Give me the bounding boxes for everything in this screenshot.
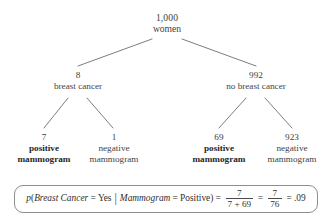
formula-fraction-1: 7 7 + 69 <box>226 189 254 209</box>
node-true-positive-count: 7 <box>17 132 70 143</box>
edge-root-to-no-breast-cancer <box>182 39 256 66</box>
formula-fraction-2-denominator: 76 <box>268 199 281 209</box>
formula-box: p(Breast Cancer=Yes|Mammogram=Positive)=… <box>14 185 318 213</box>
node-root-label: women <box>153 23 181 34</box>
node-false-negative-line1: negative <box>90 143 139 154</box>
formula-condition-value: Positive <box>180 194 210 203</box>
formula-equals-2: = <box>170 194 180 203</box>
edge-nbc-to-positive <box>219 98 246 128</box>
node-root: 1,000 women <box>153 12 181 35</box>
edge-bc-to-negative <box>87 98 113 128</box>
node-false-negative: 1 negative mammogram <box>90 132 139 165</box>
formula-fraction-1-denominator: 7 + 69 <box>226 199 254 209</box>
node-false-negative-line2: mammogram <box>90 154 139 165</box>
node-true-negative: 923 negative mammogram <box>268 132 317 165</box>
formula-equals-3: = <box>213 194 223 203</box>
node-no-breast-cancer-label: no breast cancer <box>226 81 286 92</box>
node-true-positive-line1: positive <box>17 143 70 154</box>
formula-result: .09 <box>294 194 306 203</box>
node-true-negative-line2: mammogram <box>268 154 317 165</box>
formula-conditional-bar: | <box>112 193 120 205</box>
formula-event-variable: Breast Cancer <box>34 194 88 203</box>
formula-event-value: Yes <box>98 194 112 203</box>
node-false-positive-line2: mammogram <box>192 154 245 165</box>
bayes-formula: p(Breast Cancer=Yes|Mammogram=Positive)=… <box>26 189 305 209</box>
node-false-positive-count: 69 <box>192 132 245 143</box>
node-true-negative-line1: negative <box>268 143 317 154</box>
node-no-breast-cancer-count: 992 <box>226 70 286 81</box>
formula-equals-5: = <box>284 194 294 203</box>
node-breast-cancer-count: 8 <box>54 70 102 81</box>
node-root-count: 1,000 <box>153 12 181 23</box>
node-false-positive-line1: positive <box>192 143 245 154</box>
node-breast-cancer-label: breast cancer <box>54 81 102 92</box>
edge-bc-to-positive <box>44 98 68 128</box>
edge-root-to-breast-cancer <box>78 39 152 66</box>
formula-equals-1: = <box>88 194 98 203</box>
node-breast-cancer: 8 breast cancer <box>54 70 102 92</box>
node-true-positive: 7 positive mammogram <box>17 132 70 165</box>
node-false-negative-count: 1 <box>90 132 139 143</box>
node-false-positive: 69 positive mammogram <box>192 132 245 165</box>
probability-tree-diagram: 1,000 women 8 breast cancer 992 no breas… <box>0 0 332 220</box>
node-no-breast-cancer: 992 no breast cancer <box>226 70 286 92</box>
formula-fraction-1-numerator: 7 <box>235 189 244 199</box>
edge-nbc-to-negative <box>265 98 292 128</box>
formula-fraction-2-numerator: 7 <box>270 189 279 199</box>
node-true-negative-count: 923 <box>268 132 317 143</box>
formula-condition-variable: Mammogram <box>120 194 171 203</box>
formula-fraction-2: 7 76 <box>268 189 282 209</box>
node-true-positive-line2: mammogram <box>17 154 70 165</box>
formula-equals-4: = <box>256 194 266 203</box>
